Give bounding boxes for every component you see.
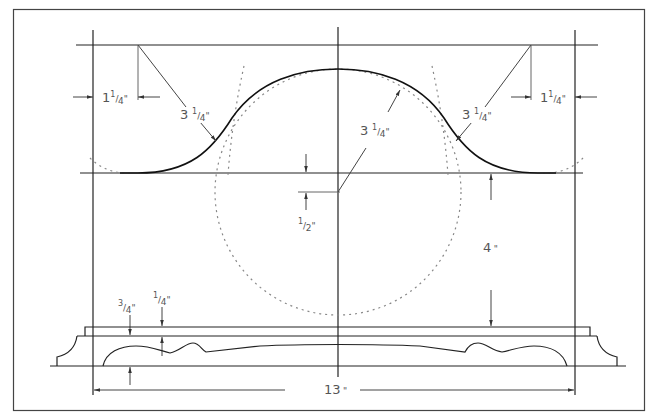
dashed-arcs	[90, 66, 583, 315]
overall-width-label: 13 "	[322, 383, 349, 396]
technical-drawing	[0, 0, 659, 419]
base-thickness-label: 3/4"	[116, 300, 137, 315]
plate-thickness-label: 1/4"	[151, 292, 172, 307]
center-radius-label: 3 1/4"	[358, 124, 391, 139]
dimension-arrows	[73, 97, 597, 390]
center-offset-label: 1/2"	[296, 218, 317, 233]
left-inset-label: 11/4"	[100, 91, 129, 106]
height-label: 4 "	[481, 241, 499, 254]
right-inset-label: 11/4"	[538, 91, 567, 106]
construction-lines	[76, 27, 598, 395]
left-radius-label: 3 1/4"	[178, 108, 211, 123]
right-radius-label: 3 1/4"	[460, 108, 493, 123]
